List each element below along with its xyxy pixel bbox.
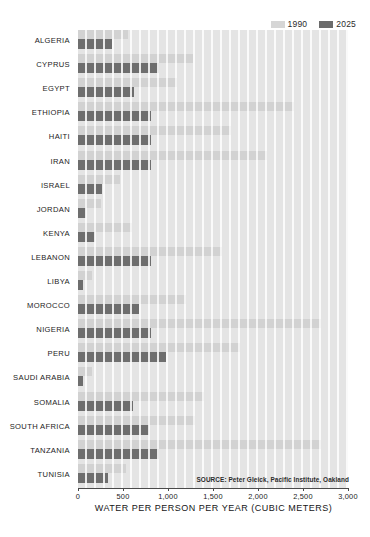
bar-group [78, 416, 348, 440]
bar-group [78, 295, 348, 319]
bar-2025 [78, 111, 151, 121]
bar-group [78, 199, 348, 223]
bar-group [78, 54, 348, 78]
bar-group [78, 151, 348, 175]
legend-label-1990: 1990 [288, 20, 308, 29]
y-axis-label: IRAN [50, 157, 70, 166]
bar-1990 [78, 102, 294, 111]
bar-group [78, 30, 348, 54]
x-axis-tick-mark [213, 488, 214, 491]
bar-group [78, 247, 348, 271]
bar-group [78, 102, 348, 126]
x-axis-tick-label: 500 [117, 492, 130, 501]
bar-2025 [78, 352, 166, 362]
y-axis-label: ETHIOPIA [32, 108, 70, 117]
x-axis-tick-label: 1,000 [158, 492, 178, 501]
bar-2025 [78, 39, 112, 49]
bar-1990 [78, 319, 321, 328]
bar-group [78, 367, 348, 391]
y-axis-label: MOROCCO [27, 301, 70, 310]
y-axis-label: SAUDI ARABIA [13, 373, 70, 382]
bar-2025 [78, 280, 83, 290]
bar-2025 [78, 232, 95, 242]
bar-2025 [78, 473, 108, 483]
x-axis-tick-mark [168, 488, 169, 491]
x-axis-tick-mark [348, 488, 349, 491]
bar-1990 [78, 199, 101, 208]
bar-1990 [78, 223, 132, 232]
bar-1990 [78, 54, 193, 63]
bar-group [78, 175, 348, 199]
bar-2025 [78, 376, 83, 386]
x-axis-tick-label: 2,000 [248, 492, 268, 501]
bar-1990 [78, 247, 222, 256]
y-axis-label: KENYA [43, 229, 70, 238]
x-axis-tick-mark [123, 488, 124, 491]
bar-group [78, 126, 348, 150]
bar-2025 [78, 184, 102, 194]
bar-1990 [78, 295, 186, 304]
x-axis-title: WATER PER PERSON PER YEAR (CUBIC METERS) [78, 503, 349, 513]
bar-2025 [78, 304, 139, 314]
bar-group [78, 223, 348, 247]
x-axis-tick-label: 2,500 [293, 492, 313, 501]
y-axis-label: LEBANON [31, 253, 70, 262]
source-note: SOURCE: Peter Gleick, Pacific Institute,… [196, 476, 349, 483]
y-axis-label: HAITI [49, 132, 70, 141]
water-per-person-bar-chart: 1990 2025 ALGERIACYPRUSEGYPTETHIOPIAHAIT… [0, 0, 370, 537]
bar-1990 [78, 78, 177, 87]
y-axis-label: TUNISIA [38, 470, 70, 479]
bar-1990 [78, 343, 240, 352]
bar-2025 [78, 160, 151, 170]
legend-entry-1990: 1990 [271, 20, 308, 29]
y-axis-label: TANZANIA [30, 446, 70, 455]
x-axis-tick-mark [303, 488, 304, 491]
bar-2025 [78, 87, 134, 97]
x-axis-tick-label: 0 [76, 492, 80, 501]
bar-1990 [78, 367, 92, 376]
x-axis-tick-label: 3,000 [338, 492, 358, 501]
bar-1990 [78, 30, 128, 39]
chart-legend: 1990 2025 [271, 18, 356, 30]
x-axis-tick-label: 1,500 [203, 492, 223, 501]
bar-1990 [78, 392, 204, 401]
bar-2025 [78, 401, 133, 411]
y-axis-label: SOMALIA [34, 398, 70, 407]
bar-2025 [78, 256, 151, 266]
y-axis-label: NIGERIA [36, 325, 70, 334]
bar-1990 [78, 464, 126, 473]
bar-2025 [78, 449, 159, 459]
bar-group [78, 271, 348, 295]
bar-2025 [78, 135, 151, 145]
bar-2025 [78, 63, 159, 73]
bar-group [78, 440, 348, 464]
bar-1990 [78, 416, 195, 425]
bar-1990 [78, 271, 92, 280]
x-axis-tick-mark [78, 488, 79, 491]
y-axis-label: LIBYA [47, 277, 70, 286]
bar-group [78, 78, 348, 102]
legend-label-2025: 2025 [336, 20, 356, 29]
y-axis-label: SOUTH AFRICA [10, 422, 70, 431]
y-axis-category-labels: ALGERIACYPRUSEGYPTETHIOPIAHAITIIRANISRAE… [0, 30, 74, 488]
y-axis-label: ISRAEL [41, 181, 70, 190]
x-axis-tick-mark [258, 488, 259, 491]
y-axis-label: ALGERIA [35, 36, 70, 45]
bar-group [78, 343, 348, 367]
bar-1990 [78, 151, 267, 160]
legend-swatch-1990 [271, 21, 285, 28]
bar-2025 [78, 425, 149, 435]
bar-1990 [78, 440, 321, 449]
y-axis-label: PERU [48, 349, 71, 358]
bar-1990 [78, 175, 120, 184]
bar-group [78, 319, 348, 343]
bar-2025 [78, 328, 151, 338]
bar-2025 [78, 208, 86, 218]
legend-swatch-2025 [319, 21, 333, 28]
bar-group [78, 392, 348, 416]
y-axis-label: JORDAN [37, 205, 70, 214]
legend-entry-2025: 2025 [319, 20, 356, 29]
bar-1990 [78, 126, 231, 135]
y-axis-label: EGYPT [43, 84, 71, 93]
plot-area [78, 30, 348, 488]
